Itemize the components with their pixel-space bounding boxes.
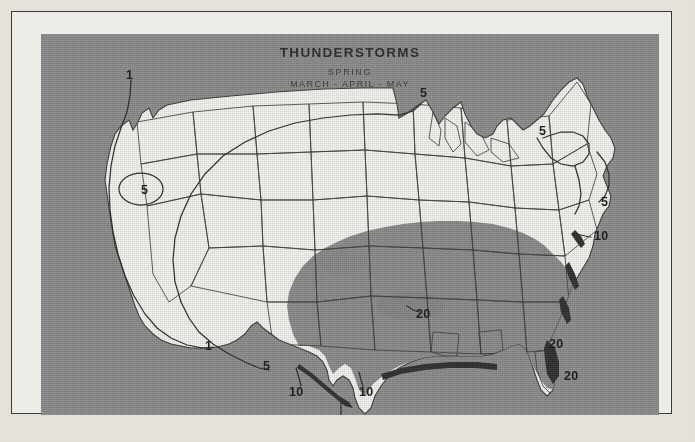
contour-label-10-delmarva: 10: [594, 229, 609, 243]
contour-label-5-nevada: 5: [141, 183, 148, 197]
contour-label-1-southwest: 1: [205, 339, 212, 353]
shaded-high-frequency-region: [287, 221, 589, 396]
contour-label-10-txcoast: 10: [359, 385, 374, 399]
map-panel: 1 5 5 5 5 10 1 5 10 10 10 20 20 20: [41, 34, 659, 415]
contour-label-5-minnesota: 5: [420, 86, 427, 100]
contour-10-riogrande: [296, 368, 301, 386]
contour-label-20-arklatex: 20: [416, 307, 431, 321]
plate-frame-border: 1 5 5 5 5 10 1 5 10 10 10 20 20 20: [11, 11, 672, 414]
contour-label-5-newengland: 5: [601, 195, 608, 209]
thunderstorm-contour-map: 1 5 5 5 5 10 1 5 10 10 10 20 20 20: [41, 34, 659, 415]
contour-label-1-pnw: 1: [126, 68, 133, 82]
contour-label-20-peninsula: 20: [564, 369, 579, 383]
contour-label-5-newyork: 5: [539, 124, 546, 138]
contour-label-20-nflorida: 20: [549, 337, 564, 351]
contour-label-10-riogrande: 10: [289, 385, 304, 399]
contour-label-5-westtexas: 5: [263, 359, 270, 373]
map-plate-page: 1 5 5 5 5 10 1 5 10 10 10 20 20 20: [0, 0, 695, 442]
